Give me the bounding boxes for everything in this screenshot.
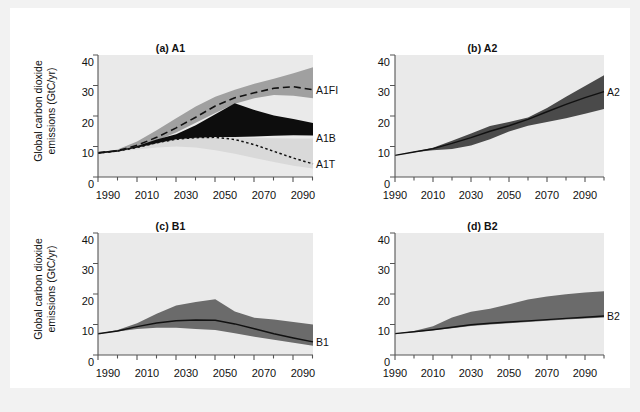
panel-b1-plot [10,198,330,388]
panel-b2: (d) B2 40 30 20 10 0 1990 2010 2030 2050… [330,198,630,388]
series-label-b1: B1 [316,336,329,348]
panel-a2-plot [330,8,630,198]
panel-b2-plot [330,198,630,388]
panel-a1-plot [10,8,330,198]
series-label-a2: A2 [607,86,620,98]
panel-a2: (b) A2 40 30 20 10 0 1990 2010 2030 2050… [330,8,630,198]
series-label-b2: B2 [607,310,620,322]
panel-a1: (a) A1 Global carbon dioxide emissions (… [10,8,330,198]
figure-canvas: (a) A1 Global carbon dioxide emissions (… [10,8,630,388]
panel-b1: (c) B1 Global carbon dioxide emissions (… [10,198,330,388]
